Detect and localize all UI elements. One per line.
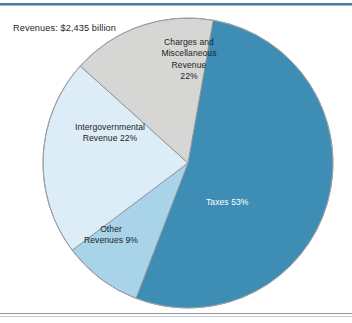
bottom-divider-hairline (0, 316, 352, 317)
bottom-divider-rule (0, 313, 352, 314)
pie-label-intergovernmental-revenue: Intergovernmental Revenue 22% (52, 122, 168, 145)
pie-chart-figure: Revenues: $2,435 billion Charges and Mis… (0, 0, 352, 323)
pie-label-taxes: Taxes 53% (206, 197, 292, 208)
pie-label-other-revenues: Other Revenues 9% (62, 224, 160, 247)
pie-label-charges-and-miscellaneous-revenue: Charges and Miscellaneous Revenue 22% (141, 37, 237, 83)
